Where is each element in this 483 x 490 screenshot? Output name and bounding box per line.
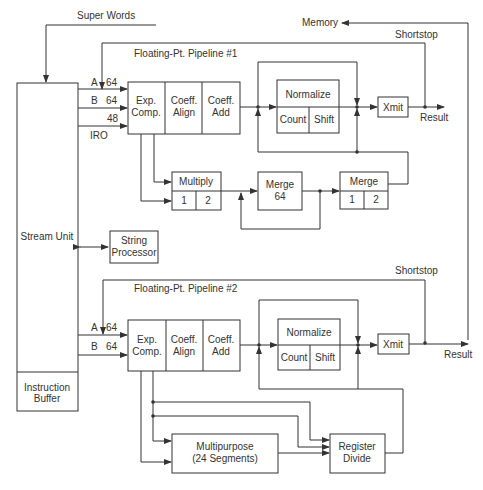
normalize-1-shift: Shift: [314, 114, 334, 125]
stage2-exp-comp-1: Exp.: [137, 334, 157, 345]
stage2-coeff-add-2: Add: [212, 346, 230, 357]
instruction-buffer-label-2: Buffer: [34, 393, 61, 404]
string-processor-label-1: String: [121, 235, 147, 246]
multipurpose-label-1: Multipurpose: [196, 441, 254, 452]
stream-unit-box: [17, 83, 78, 411]
stage2-exp-comp-2: Comp.: [132, 346, 161, 357]
memory-label: Memory: [302, 17, 338, 28]
string-processor-block: String Processor: [80, 231, 158, 263]
input2-b-label: B: [91, 341, 98, 352]
super-words-connection: Super Words: [46, 10, 156, 82]
input2-b-width: 64: [106, 341, 118, 352]
input-a-width: 64: [106, 77, 118, 88]
merge-seg-2: 2: [373, 194, 379, 205]
input2-a-width: 64: [106, 322, 118, 333]
stream-unit-block: Stream Unit Instruction Buffer: [17, 83, 78, 411]
input-iro-label: IRO: [90, 130, 108, 141]
register-divide-label-1: Register: [338, 441, 376, 452]
pipeline-1: Floating-Pt. Pipeline #1 Shortstop A 64 …: [78, 29, 449, 229]
input2-a-label: A: [91, 322, 98, 333]
stage-coeff-align-1: Coeff.: [171, 95, 198, 106]
input-b-width: 64: [106, 95, 118, 106]
register-divide-label-2: Divide: [343, 453, 371, 464]
merge64-label-1: Merge: [266, 179, 295, 190]
stage-exp-comp-2: Comp.: [131, 107, 160, 118]
stage2-coeff-align-1: Coeff.: [171, 334, 198, 345]
normalize-2-shift: Shift: [315, 352, 335, 363]
normalize-1-label: Normalize: [285, 89, 330, 100]
stage2-coeff-align-2: Align: [173, 346, 195, 357]
input-b-label: B: [91, 95, 98, 106]
architecture-diagram: Super Words Memory Stream Unit Instructi…: [0, 0, 483, 490]
stream-unit-label: Stream Unit: [21, 231, 74, 242]
multiply-label: Multiply: [179, 176, 213, 187]
result-1-label: Result: [420, 112, 449, 123]
pipeline-2-title: Floating-Pt. Pipeline #2: [134, 283, 238, 294]
shortstop-1-label: Shortstop: [395, 29, 438, 40]
pipeline-1-title: Floating-Pt. Pipeline #1: [134, 48, 238, 59]
input-a-label: A: [91, 77, 98, 88]
stage-coeff-add-2: Add: [212, 107, 230, 118]
multiply-seg-2: 2: [205, 195, 211, 206]
instruction-buffer-label-1: Instruction: [24, 382, 70, 393]
stage2-coeff-add-1: Coeff.: [208, 334, 235, 345]
input-48-width: 48: [107, 113, 119, 124]
super-words-label: Super Words: [77, 10, 135, 21]
normalize-1-count: Count: [280, 114, 307, 125]
shortstop-2-label: Shortstop: [395, 265, 438, 276]
multiply-seg-1: 1: [181, 195, 187, 206]
multipurpose-label-2: (24 Segments): [192, 453, 258, 464]
merge-label: Merge: [350, 176, 379, 187]
string-processor-label-2: Processor: [111, 247, 157, 258]
xmit-2-label: Xmit: [383, 339, 403, 350]
stage-exp-comp-1: Exp.: [136, 95, 156, 106]
xmit-1-label: Xmit: [383, 102, 403, 113]
normalize-2-label: Normalize: [286, 327, 331, 338]
normalize-2-count: Count: [281, 352, 308, 363]
merge-seg-1: 1: [349, 194, 355, 205]
stage-coeff-align-2: Align: [173, 107, 195, 118]
result-2-label: Result: [444, 349, 473, 360]
merge64-label-2: 64: [274, 191, 286, 202]
stage-coeff-add-1: Coeff.: [208, 95, 235, 106]
pipeline-2: Floating-Pt. Pipeline #2 Shortstop A 64 …: [78, 265, 473, 473]
